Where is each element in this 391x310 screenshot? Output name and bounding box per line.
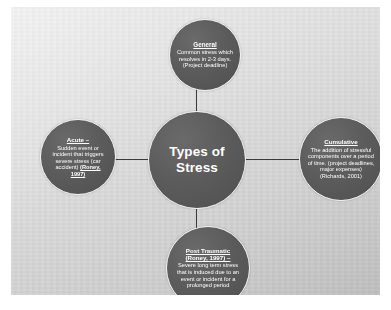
center-node-label: Types of Stress [149, 144, 245, 177]
slide-canvas: Types of Stress General Common stress wh… [11, 7, 380, 295]
cumulative-node-content: Cumulative The addition of stressful com… [300, 138, 380, 179]
node-cumulative[interactable]: Cumulative The addition of stressful com… [299, 117, 380, 201]
node-general[interactable]: General Common stress which resolves in … [169, 19, 241, 91]
post-traumatic-node-body: Severe long term stress that is induced … [174, 262, 242, 288]
post-traumatic-node-title: Post Traumatic (Roney, 1997) – [174, 247, 242, 261]
acute-node-body: Sudden event or incident that triggers s… [48, 145, 108, 178]
general-node-body: Common stress which resolves in 2-3 days… [177, 49, 233, 69]
node-types-of-stress[interactable]: Types of Stress [148, 111, 246, 209]
cumulative-node-title: Cumulative [307, 138, 375, 145]
node-acute[interactable]: Acute – Sudden event or incident that tr… [40, 119, 116, 195]
post-traumatic-node-content: Post Traumatic (Roney, 1997) – Severe lo… [167, 247, 249, 289]
general-node-title: General [177, 41, 233, 48]
acute-node-content: Acute – Sudden event or incident that tr… [41, 136, 115, 177]
acute-node-title: Acute – [48, 136, 108, 143]
cumulative-node-body: The addition of stressful components ove… [307, 147, 375, 180]
node-post-traumatic[interactable]: Post Traumatic (Roney, 1997) – Severe lo… [166, 226, 250, 295]
general-node-content: General Common stress which resolves in … [170, 41, 240, 69]
